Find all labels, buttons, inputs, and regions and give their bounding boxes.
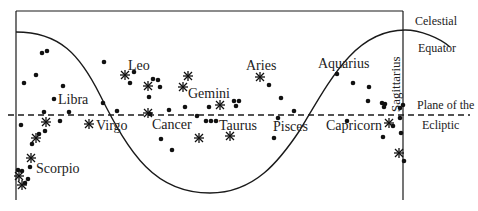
- label-equator: Equator: [418, 41, 456, 55]
- label-libra: Libra: [58, 92, 89, 107]
- label-capricorn: Capricorn: [326, 118, 382, 133]
- label-aries: Aries: [246, 58, 276, 73]
- label-cancer: Cancer: [152, 117, 192, 132]
- label-ecliptic: Ecliptic: [422, 118, 459, 132]
- label-sagittarius: Sagittarius: [388, 56, 403, 112]
- label-virgo: Virgo: [96, 118, 128, 133]
- label-plane-of-the: Plane of the: [417, 98, 474, 112]
- label-scorpio: Scorpio: [36, 161, 80, 176]
- label-gemini: Gemini: [188, 86, 230, 101]
- label-leo: Leo: [128, 58, 150, 73]
- label-pisces: Pisces: [273, 119, 308, 134]
- side-labels: Celestial Equator Plane of the Ecliptic: [415, 14, 474, 132]
- celestial-diagram: Libra Virgo Leo Gemini Cancer Taurus Ari…: [0, 0, 478, 211]
- constellation-labels: Libra Virgo Leo Gemini Cancer Taurus Ari…: [36, 56, 403, 176]
- celestial-equator-curve: [16, 30, 450, 193]
- label-celestial: Celestial: [415, 14, 458, 28]
- label-aquarius: Aquarius: [318, 56, 369, 71]
- label-taurus: Taurus: [219, 118, 257, 133]
